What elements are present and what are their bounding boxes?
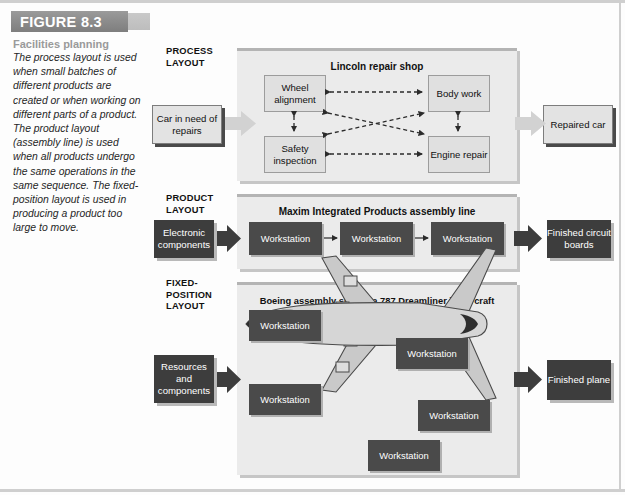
fixed-flow-arrows xyxy=(0,0,625,495)
figure-8-3: FIGURE 8.3 Facilities planning The proce… xyxy=(0,0,625,495)
fixed-input-box: Resources and components xyxy=(154,355,214,403)
fixed-output-box: Finished plane xyxy=(547,360,611,400)
